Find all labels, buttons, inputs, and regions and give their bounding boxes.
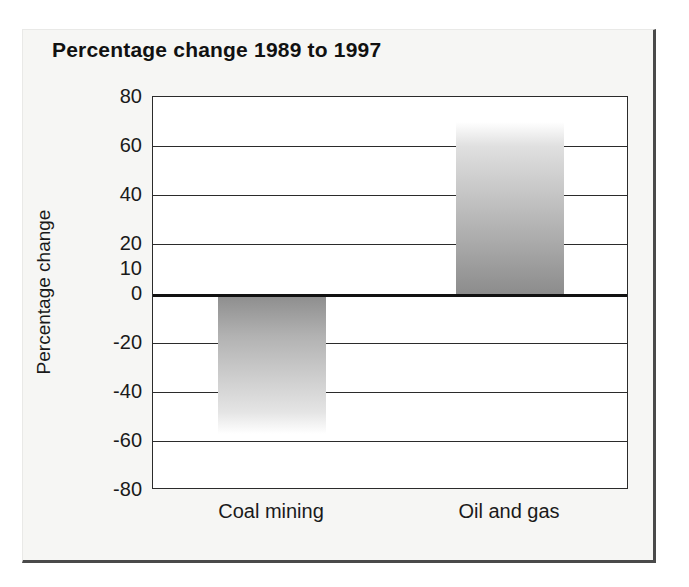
gridline (153, 441, 627, 442)
x-tick-label: Coal mining (218, 500, 324, 523)
x-tick-label: Oil and gas (458, 500, 559, 523)
y-tick-label: 20 (82, 232, 142, 255)
zero-gridline (153, 294, 627, 297)
bar-oil-and-gas (456, 122, 564, 294)
y-tick-label: -40 (82, 379, 142, 402)
y-tick-label: -80 (82, 478, 142, 501)
y-axis-title: Percentage change (33, 210, 55, 375)
chart-title: Percentage change 1989 to 1997 (52, 38, 381, 62)
y-tick-label: 10 (82, 256, 142, 279)
y-tick-label: 0 (82, 281, 142, 304)
bar-coal-mining (218, 294, 326, 434)
y-tick-label: 40 (82, 183, 142, 206)
y-tick-label: 60 (82, 134, 142, 157)
plot-area (152, 96, 628, 489)
y-axis-tick-labels: 80604020100-20-40-60-80 (78, 96, 142, 489)
y-tick-label: -60 (82, 428, 142, 451)
chart-figure: Percentage change 1989 to 1997 Percentag… (0, 0, 689, 587)
y-tick-label: 80 (82, 85, 142, 108)
y-tick-label: -20 (82, 330, 142, 353)
